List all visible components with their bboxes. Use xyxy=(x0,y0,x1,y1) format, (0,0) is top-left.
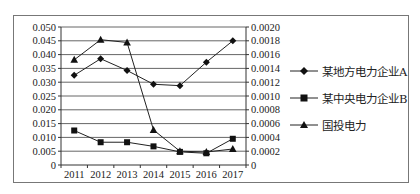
svg-text:0.030: 0.030 xyxy=(32,77,56,88)
triangle-icon xyxy=(290,120,318,130)
svg-text:0.0006: 0.0006 xyxy=(251,118,280,129)
svg-text:0.015: 0.015 xyxy=(32,118,56,129)
diamond-icon xyxy=(290,66,318,76)
svg-text:0.035: 0.035 xyxy=(32,63,56,74)
square-icon xyxy=(290,93,318,103)
svg-text:2016: 2016 xyxy=(196,169,217,180)
left-y-axis: 00.0050.0100.0150.0200.0250.0300.0350.04… xyxy=(32,22,61,171)
svg-text:0.010: 0.010 xyxy=(32,132,56,143)
legend-label: 某地方电力企业A xyxy=(322,63,407,79)
right-y-axis: 00.00020.00040.00060.00080.00100.00120.0… xyxy=(246,22,281,171)
svg-text:0.0004: 0.0004 xyxy=(251,132,281,143)
svg-text:0.0014: 0.0014 xyxy=(251,63,281,74)
legend-item-c: 国投电力 xyxy=(290,117,366,133)
svg-text:0.0010: 0.0010 xyxy=(251,91,280,102)
svg-text:0.0016: 0.0016 xyxy=(251,49,280,60)
svg-text:0.005: 0.005 xyxy=(32,146,56,157)
svg-text:0: 0 xyxy=(51,160,56,171)
svg-text:2014: 2014 xyxy=(143,169,165,180)
legend-label: 国投电力 xyxy=(322,117,366,133)
svg-text:2017: 2017 xyxy=(222,169,243,180)
svg-text:0.0012: 0.0012 xyxy=(251,77,280,88)
svg-text:2012: 2012 xyxy=(90,169,111,180)
svg-text:0: 0 xyxy=(251,160,256,171)
svg-text:0.0002: 0.0002 xyxy=(251,146,280,157)
legend-item-a: 某地方电力企业A xyxy=(290,63,407,79)
svg-text:0.040: 0.040 xyxy=(32,49,56,60)
legend-item-b: 某中央电力企业B xyxy=(290,90,407,106)
svg-text:0.0018: 0.0018 xyxy=(251,35,280,46)
svg-text:0.0008: 0.0008 xyxy=(251,104,280,115)
svg-text:0.045: 0.045 xyxy=(32,35,56,46)
legend-label: 某中央电力企业B xyxy=(322,90,407,106)
svg-text:0.025: 0.025 xyxy=(32,91,56,102)
svg-text:2015: 2015 xyxy=(169,169,190,180)
svg-text:2013: 2013 xyxy=(117,169,138,180)
svg-text:0.0020: 0.0020 xyxy=(251,22,280,33)
x-axis: 2011201220132014201520162017 xyxy=(61,165,246,180)
svg-text:0.020: 0.020 xyxy=(32,104,56,115)
svg-text:2011: 2011 xyxy=(64,169,85,180)
svg-text:0.050: 0.050 xyxy=(32,22,56,33)
